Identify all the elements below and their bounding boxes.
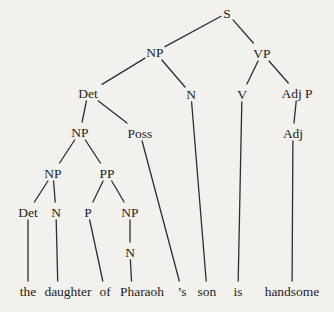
tree-edge-N1-w6 bbox=[192, 102, 207, 281]
tree-edge-Poss-w5 bbox=[142, 141, 179, 281]
tree-node-N1: N bbox=[186, 87, 196, 102]
tree-edge-AdjP-Adj bbox=[294, 101, 296, 123]
terminal-word-w2: daughter bbox=[44, 284, 92, 299]
syntax-tree-figure: SNPVPDetNVAdj PNPPossAdjNPPPDetNPNPNthed… bbox=[0, 0, 334, 312]
terminal-word-w6: son bbox=[198, 284, 217, 299]
tree-edge-PP-NP4 bbox=[112, 181, 124, 202]
terminal-word-w5: ’s bbox=[177, 284, 186, 299]
tree-edge-S-NP1 bbox=[165, 16, 221, 46]
tree-edge-NP1-N1 bbox=[162, 60, 185, 87]
tree-edge-NP2-PP bbox=[85, 140, 100, 163]
terminal-word-w1: the bbox=[20, 284, 37, 299]
tree-node-VP: VP bbox=[253, 46, 270, 61]
tree-node-NP4: NP bbox=[121, 205, 138, 220]
tree-edge-VP-AdjP bbox=[269, 61, 288, 83]
tree-edge-P-w3 bbox=[90, 220, 103, 281]
terminal-word-w8: handsome bbox=[265, 284, 320, 299]
tree-edge-Adj-w8 bbox=[292, 141, 293, 281]
tree-node-NP2: NP bbox=[71, 125, 88, 140]
tree-edge-S-VP bbox=[233, 20, 253, 43]
tree-node-AdjP: Adj P bbox=[281, 86, 312, 101]
tree-node-Adj: Adj bbox=[283, 126, 303, 141]
tree-edge-NP2-NP3 bbox=[60, 140, 75, 163]
tree-node-S: S bbox=[223, 6, 231, 21]
tree-edge-N2-w2 bbox=[56, 220, 58, 281]
tree-node-N3: N bbox=[125, 245, 135, 260]
tree-edge-V-w7 bbox=[238, 102, 242, 281]
tree-edge-Det1-Poss bbox=[98, 101, 127, 123]
tree-edge-Det1-NP2 bbox=[82, 101, 86, 122]
tree-node-Poss: Poss bbox=[128, 126, 153, 141]
tree-node-Det1: Det bbox=[78, 86, 98, 101]
tree-edge-N3-w4 bbox=[130, 260, 131, 281]
tree-edge-NP1-Det1 bbox=[102, 58, 145, 84]
tree-node-NP3: NP bbox=[44, 166, 61, 181]
terminal-word-w4: Pharaoh bbox=[120, 284, 164, 299]
tree-node-P: P bbox=[84, 205, 92, 220]
tree-edge-PP-P bbox=[93, 181, 103, 202]
tree-node-N2: N bbox=[51, 205, 61, 220]
tree-node-PP: PP bbox=[99, 166, 114, 181]
tree-node-NP1: NP bbox=[146, 45, 163, 60]
tree-edge-NP3-Det2 bbox=[34, 181, 48, 202]
tree-node-Det2: Det bbox=[18, 205, 38, 220]
terminal-word-w3: of bbox=[99, 284, 111, 299]
terminal-word-w7: is bbox=[233, 284, 242, 299]
tree-node-V: V bbox=[237, 87, 247, 102]
syntax-tree-diagram: SNPVPDetNVAdj PNPPossAdjNPPPDetNPNPNthed… bbox=[0, 0, 334, 312]
tree-edge-NP3-N2 bbox=[54, 181, 56, 202]
tree-edge-VP-V bbox=[247, 61, 258, 84]
